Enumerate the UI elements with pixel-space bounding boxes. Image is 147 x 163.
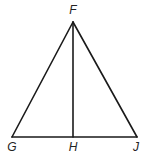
label-g: G [7,140,16,154]
label-h: H [69,140,78,154]
triangle-diagram: F G H J [0,0,147,163]
label-f: F [69,3,77,17]
segment-fj [73,22,137,137]
segment-fg [12,22,73,137]
label-j: J [132,140,140,154]
